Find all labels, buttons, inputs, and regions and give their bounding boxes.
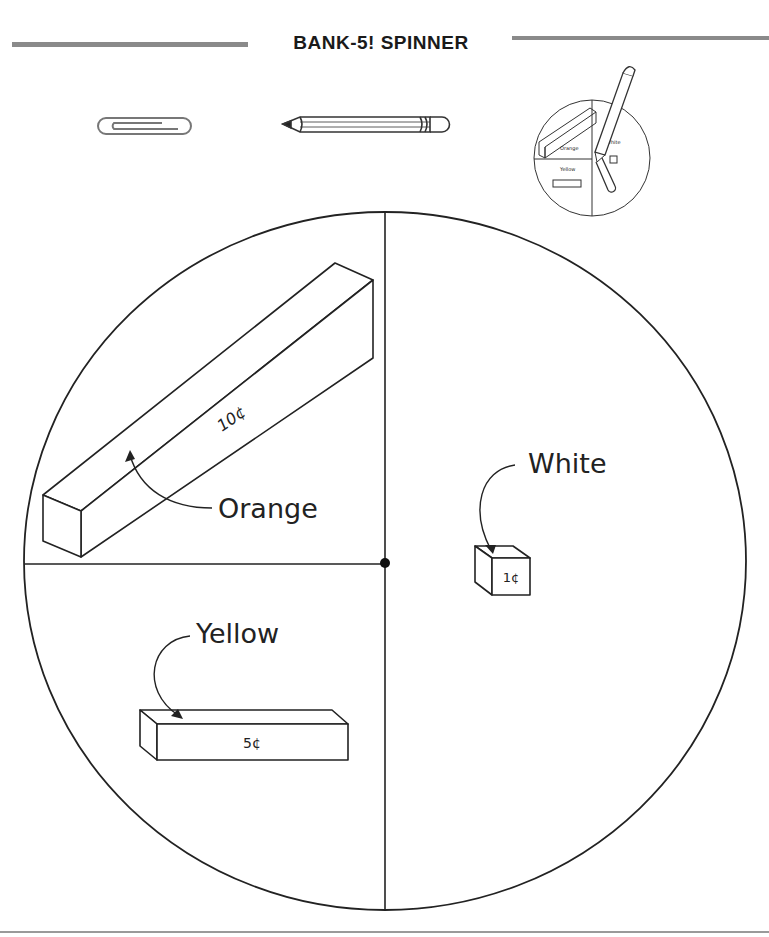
yellow-pointer-arrow — [154, 636, 190, 715]
spinner-preview-icon: Orange White Yellow — [534, 67, 650, 216]
yellow-rod-top-face — [140, 710, 348, 724]
yellow-section[interactable]: 5¢ Yellow — [140, 618, 348, 760]
white-label: White — [528, 448, 607, 479]
spinner-center-pivot[interactable] — [380, 558, 390, 568]
orange-section[interactable]: 10¢ Orange — [43, 263, 373, 557]
orange-label: Orange — [218, 493, 318, 524]
spinner-diagram: Orange White Yellow 10¢ Orange 1¢ Wh — [0, 0, 769, 937]
spinner-board — [24, 212, 746, 910]
paper-clip-icon — [98, 118, 191, 134]
svg-text:Yellow: Yellow — [559, 166, 575, 172]
svg-text:Orange: Orange — [560, 145, 578, 152]
pencil-icon — [283, 117, 450, 132]
footer-rule — [0, 931, 769, 933]
yellow-value-label: 5¢ — [243, 735, 261, 751]
yellow-label: Yellow — [195, 618, 279, 649]
white-pointer-arrow — [480, 465, 515, 550]
white-section[interactable]: 1¢ White — [475, 448, 607, 595]
white-value-label: 1¢ — [503, 570, 520, 585]
